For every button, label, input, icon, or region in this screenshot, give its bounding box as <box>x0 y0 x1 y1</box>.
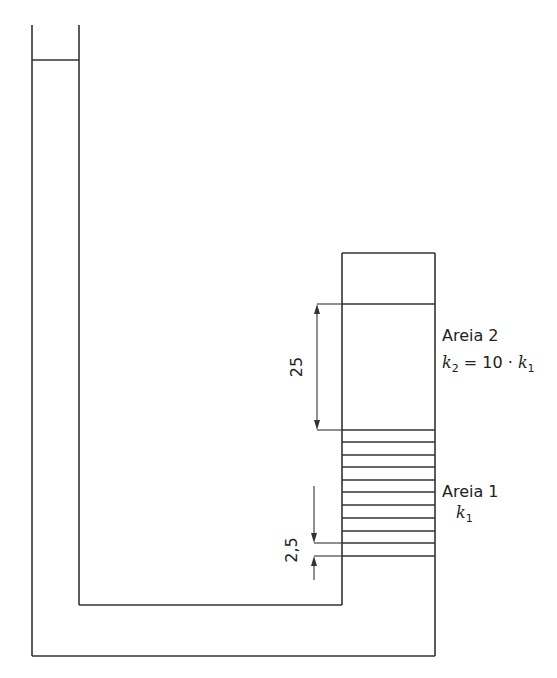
sand-1-permeability: k1 <box>456 503 473 525</box>
sand-1-hatch <box>342 430 435 556</box>
left-tube <box>32 25 79 656</box>
dimension-2-5-label: 2,5 <box>282 537 301 562</box>
permeameter-diagram: 25 2,5 Areia 2 k2 = 10 · k1 Areia 1 k1 <box>0 0 557 678</box>
arrow-down-icon <box>314 420 320 430</box>
u-bottom <box>32 605 435 656</box>
arrow-up-icon <box>314 304 320 314</box>
dimension-25-label: 25 <box>287 357 306 377</box>
arrow-down-icon <box>311 533 317 543</box>
dimension-25: 25 <box>287 304 343 430</box>
sand-2-label: Areia 2 <box>442 326 499 345</box>
arrow-up-icon <box>311 556 317 566</box>
dimension-2-5: 2,5 <box>282 486 343 580</box>
sand-1-label: Areia 1 <box>442 482 499 501</box>
sand-2-permeability: k2 = 10 · k1 <box>442 353 535 375</box>
